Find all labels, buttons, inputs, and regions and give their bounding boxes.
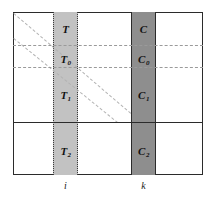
cell-label-t-zero-sub: 0 xyxy=(68,59,72,67)
cell-label-c-two-sub: 2 xyxy=(146,151,150,159)
cell-label-c-one-sub: 1 xyxy=(146,95,150,103)
cell-label-c-top-text: C xyxy=(140,23,147,35)
cell-label-c-one-text: C xyxy=(138,89,145,101)
solid-separator xyxy=(13,122,203,123)
cell-label-t-two-sub: 2 xyxy=(68,151,72,159)
axis-label-k-text: k xyxy=(141,180,145,191)
cell-label-c-two: C2 xyxy=(131,146,156,157)
cell-label-c-one: C1 xyxy=(131,90,156,101)
axis-label-k: k xyxy=(131,181,156,191)
cell-label-t-top-text: T xyxy=(62,23,69,35)
cell-label-c-top: C xyxy=(131,24,156,35)
axis-label-i: i xyxy=(53,181,78,191)
cell-label-t-zero-text: T xyxy=(60,53,67,65)
dashed-guide-upper xyxy=(13,45,203,46)
cell-label-t-two: T2 xyxy=(53,146,78,157)
axis-label-i-text: i xyxy=(64,180,67,191)
cell-label-c-zero: C0 xyxy=(131,54,156,65)
cell-label-t-one-text: T xyxy=(60,89,67,101)
cell-label-t-one-sub: 1 xyxy=(68,95,72,103)
cell-label-c-zero-sub: 0 xyxy=(146,59,150,67)
cell-label-t-two-text: T xyxy=(60,145,67,157)
figure-canvas: T T0 T1 T2 C C0 C1 C2 i k xyxy=(0,0,216,206)
cell-label-t-one: T1 xyxy=(53,90,78,101)
cell-label-c-two-text: C xyxy=(138,145,145,157)
cell-label-t-zero: T0 xyxy=(53,54,78,65)
cell-label-t-top: T xyxy=(53,24,78,35)
dashed-guide-lower xyxy=(13,67,203,68)
cell-label-c-zero-text: C xyxy=(138,53,145,65)
